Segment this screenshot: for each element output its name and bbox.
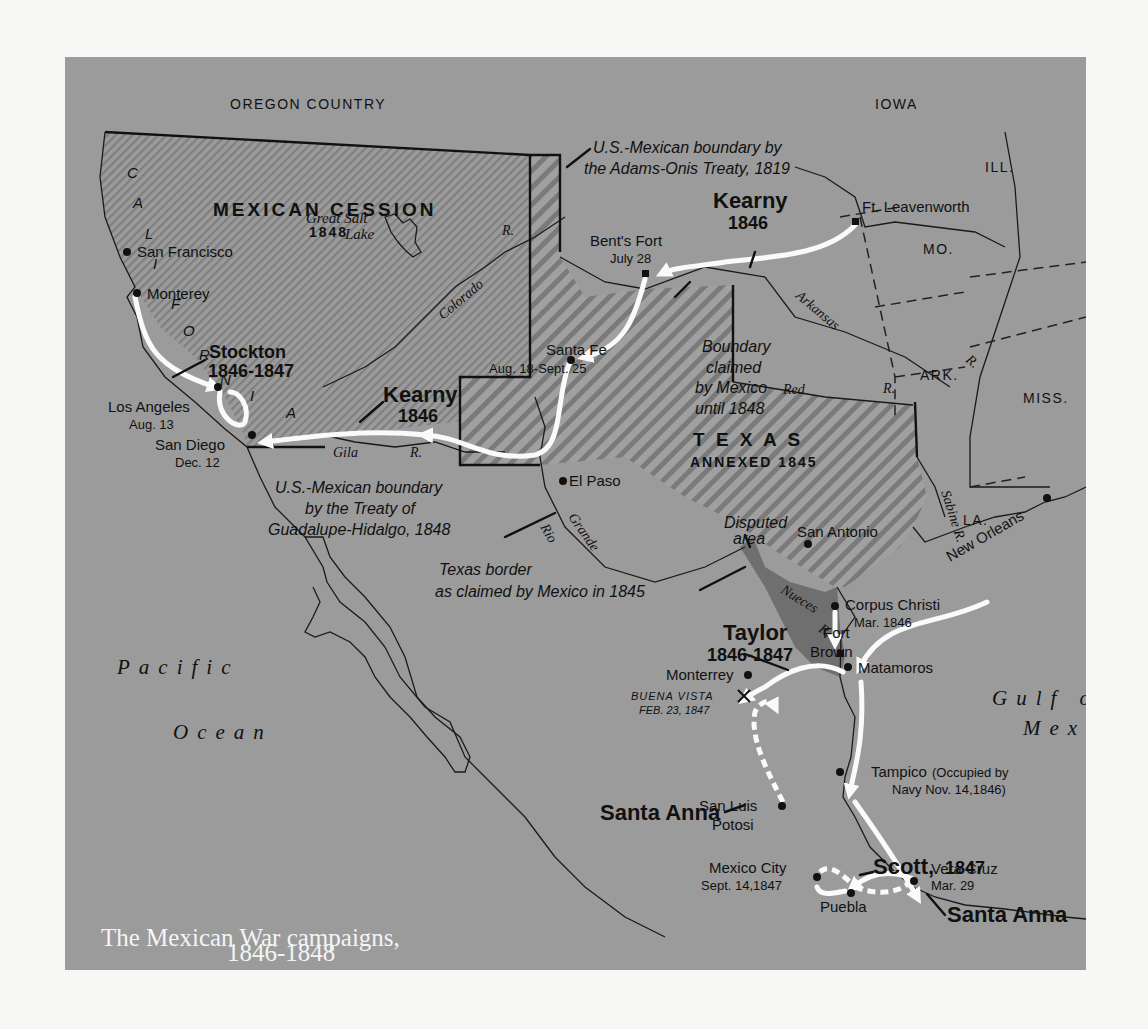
label-colorado-r: R.: [501, 223, 514, 238]
label-monterrey: Monterrey: [666, 666, 734, 683]
label-monterey: Monterey: [147, 285, 210, 302]
label-texas-annexed: ANNEXED 1845: [690, 454, 818, 470]
label-san-diego-date: Dec. 12: [175, 455, 220, 470]
label-stockton: Stockton: [209, 342, 286, 362]
svg-text:I: I: [250, 387, 254, 404]
label-santa-anna-north: Santa Anna: [600, 800, 721, 825]
note-disputed-1: Disputed: [724, 514, 788, 531]
note-guadalupe-2: by the Treaty of: [305, 500, 417, 517]
label-kearny-south-year: 1846: [398, 406, 438, 426]
svg-text:L: L: [145, 225, 153, 242]
label-kearny-south: Kearny: [383, 382, 458, 407]
label-gulf-of: Gulf of: [992, 686, 1086, 710]
label-taylor: Taylor: [723, 620, 788, 645]
label-mexican-cession-year: 1848: [309, 224, 348, 240]
label-el-paso: El Paso: [569, 472, 621, 489]
label-arkansas-state: ARK.: [920, 367, 959, 383]
label-buena-vista-date: FEB. 23, 1847: [639, 704, 710, 716]
label-bents-fort-date: July 28: [610, 251, 651, 266]
note-boundary-claimed-4: until 1848: [695, 400, 764, 417]
note-disputed-2: area: [733, 530, 765, 547]
note-texas-border-1: Texas border: [439, 561, 532, 578]
label-tampico-note-1: (Occupied by: [932, 765, 1009, 780]
label-san-francisco: San Francisco: [137, 243, 233, 260]
label-mexico-city: Mexico City: [709, 859, 787, 876]
note-guadalupe-3: Guadalupe-Hidalgo, 1848: [268, 521, 450, 538]
label-kearny-north-year: 1846: [728, 213, 768, 233]
label-gila-river: Gila: [333, 445, 358, 460]
label-oregon-country: OREGON COUNTRY: [230, 96, 386, 112]
label-taylor-year: 1846-1847: [707, 645, 793, 665]
label-santa-anna-south: Santa Anna: [947, 902, 1068, 927]
label-corpus-christi-date: Mar. 1846: [854, 615, 912, 630]
note-boundary-claimed-1: Boundary: [702, 338, 771, 355]
label-iowa: IOWA: [875, 96, 918, 112]
label-illinois: ILL.: [985, 159, 1014, 175]
note-adams-onis-2: the Adams-Onis Treaty, 1819: [584, 160, 790, 177]
svg-text:C: C: [127, 164, 138, 181]
label-great-salt-lake-2: Lake: [344, 226, 375, 242]
label-vera-cruz-date: Mar. 29: [931, 878, 974, 893]
label-mexico-city-date: Sept. 14,1847: [701, 878, 782, 893]
svg-text:A: A: [285, 404, 296, 421]
label-matamoros: Matamoros: [858, 659, 933, 676]
label-buena-vista: BUENA VISTA: [631, 690, 714, 702]
note-boundary-claimed-3: by Mexico: [695, 379, 767, 396]
label-great-salt-lake-1: Great Salt: [306, 210, 368, 226]
label-scott: Scott,: [873, 854, 934, 879]
note-adams-onis-1: U.S.-Mexican boundary by: [593, 139, 783, 156]
label-ft-leavenworth: Ft. Leavenworth: [862, 198, 970, 215]
label-bents-fort: Bent's Fort: [590, 232, 663, 249]
label-stockton-year: 1846-1847: [208, 361, 294, 381]
label-corpus-christi: Corpus Christi: [845, 596, 940, 613]
label-red-river: Red: [782, 382, 806, 397]
label-san-antonio: San Antonio: [797, 523, 878, 540]
label-texas: T E X A S: [693, 429, 803, 450]
note-boundary-claimed-2: claimed: [706, 359, 762, 376]
label-red-r: R.: [882, 381, 895, 396]
label-ocean: Ocean: [173, 720, 273, 744]
label-los-angeles-date: Aug. 13: [129, 417, 174, 432]
label-scott-year: 1847: [945, 858, 985, 878]
map-title-line-2: 1846-1848: [227, 939, 335, 966]
label-fort: Fort: [823, 624, 851, 641]
label-puebla: Puebla: [820, 898, 867, 915]
svg-text:A: A: [132, 194, 143, 211]
label-mexico-gulf: Mexico: [1022, 716, 1086, 740]
svg-text:O: O: [183, 322, 195, 339]
label-missouri: MO.: [923, 241, 954, 257]
note-guadalupe-1: U.S.-Mexican boundary: [275, 479, 443, 496]
label-pacific: Pacific: [116, 655, 239, 679]
label-kearny-north: Kearny: [713, 188, 788, 213]
label-santa-fe: Santa Fe: [546, 341, 607, 358]
label-san-diego: San Diego: [155, 436, 225, 453]
label-santa-fe-date: Aug. 18-Sept. 25: [489, 361, 587, 376]
label-tampico: Tampico: [871, 763, 927, 780]
label-gila-r: R.: [409, 445, 422, 460]
label-mississippi: MISS.: [1023, 390, 1069, 406]
label-los-angeles: Los Angeles: [108, 398, 190, 415]
label-tampico-note-2: Navy Nov. 14,1846): [892, 782, 1006, 797]
note-texas-border-2: as claimed by Mexico in 1845: [435, 583, 645, 600]
mexican-war-map: OREGON COUNTRY IOWA ILL. MO. ARK. MISS. …: [65, 57, 1086, 970]
label-brown: Brown: [810, 643, 853, 660]
